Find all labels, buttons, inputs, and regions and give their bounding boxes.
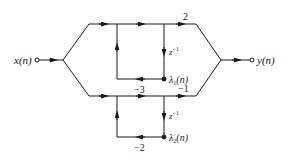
signal-flow-diagram: x(n) y(n) 2 −1 −3 −2 z−1 z−1 λ1(n) λ2(n) bbox=[0, 0, 284, 161]
lambda1-node bbox=[162, 77, 166, 81]
feedback-bottom-label: −2 bbox=[134, 142, 145, 153]
split-upper bbox=[63, 24, 89, 60]
delay-top-label: z−1 bbox=[168, 46, 179, 57]
delay-bottom-label: z−1 bbox=[168, 110, 179, 121]
lambda2-node bbox=[162, 135, 166, 139]
output-label: y(n) bbox=[256, 54, 275, 67]
feedback-top-label: −3 bbox=[134, 84, 145, 95]
input-node bbox=[35, 58, 39, 62]
lambda1-label: λ1(n) bbox=[168, 74, 189, 86]
output-node bbox=[250, 58, 254, 62]
lambda2-label: λ2(n) bbox=[168, 132, 189, 144]
merge-upper bbox=[196, 24, 221, 60]
split-lower bbox=[63, 60, 89, 96]
gain-top-label: 2 bbox=[183, 11, 188, 22]
input-label: x(n) bbox=[13, 54, 32, 67]
merge-lower bbox=[196, 60, 221, 96]
